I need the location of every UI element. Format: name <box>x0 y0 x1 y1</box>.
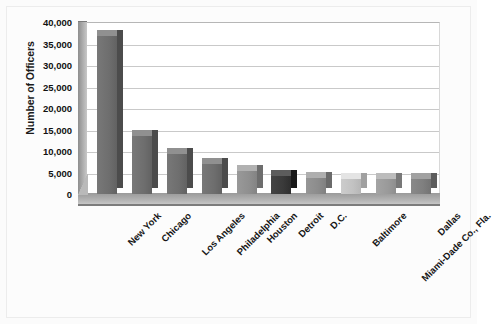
bar-front-face <box>271 176 291 194</box>
bar-front-face <box>167 154 187 194</box>
bar-front-face <box>376 179 396 194</box>
y-axis-tick-label: 15,000 <box>18 124 72 135</box>
bar-column[interactable] <box>237 171 257 194</box>
bar-column[interactable] <box>97 36 117 194</box>
x-axis-category-label: Chicago <box>159 210 193 244</box>
bar-column[interactable] <box>306 178 326 194</box>
y-axis-tick-label: 25,000 <box>18 81 72 92</box>
x-axis-category-label: D.C. <box>328 210 349 231</box>
bar-side-face <box>152 130 158 188</box>
bar-front-face <box>237 171 257 194</box>
x-axis-category-label: Baltimore <box>370 210 409 249</box>
y-axis-tick-label: 5,000 <box>18 167 72 178</box>
bar-front-face <box>411 179 431 194</box>
plot-floor-front-edge <box>78 204 440 206</box>
plot-area <box>78 22 440 206</box>
plot-floor <box>78 193 440 206</box>
bar-column[interactable] <box>132 136 152 194</box>
y-axis-tick-label: 30,000 <box>18 60 72 71</box>
y-axis-tick-label: 0 <box>18 189 72 200</box>
bar-column[interactable] <box>411 179 431 194</box>
bar-front-face <box>306 178 326 194</box>
bar-column[interactable] <box>167 154 187 194</box>
bar-front-face <box>97 36 117 194</box>
bar-series <box>86 22 440 194</box>
bar-front-face <box>202 164 222 194</box>
x-axis-category-label: New York <box>126 210 164 248</box>
bar-column[interactable] <box>376 179 396 194</box>
y-axis-tick-label: 20,000 <box>18 103 72 114</box>
bar-side-face <box>117 30 123 188</box>
y-axis-tick-labels: 40,00035,00030,00025,00020,00015,00010,0… <box>18 22 72 206</box>
x-axis-category-labels: New YorkChicagoLos AngelesPhiladelphiaHo… <box>78 208 458 318</box>
y-axis-tick-label: 40,000 <box>18 17 72 28</box>
bar-column[interactable] <box>202 164 222 194</box>
bar-column[interactable] <box>271 176 291 194</box>
bar-front-face <box>132 136 152 194</box>
y-axis-tick-label: 35,000 <box>18 38 72 49</box>
y-axis-tick-label: 10,000 <box>18 146 72 157</box>
bar-front-face <box>341 179 361 194</box>
x-axis-category-label: Detroit <box>296 210 325 239</box>
bar-column[interactable] <box>341 179 361 194</box>
